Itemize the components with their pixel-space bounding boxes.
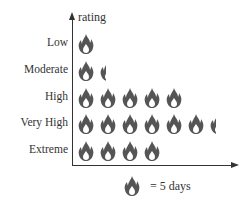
category-label: Very High [20, 116, 68, 128]
category-label: Low [47, 36, 68, 48]
legend-text: = 5 days [150, 179, 191, 194]
flame-icon [78, 141, 94, 161]
flame-icon [166, 114, 182, 134]
flame-icon [122, 114, 138, 134]
flame-icon [144, 141, 160, 161]
flame-icon [78, 88, 94, 108]
flame-icon [100, 88, 116, 108]
flame-icon [100, 141, 116, 161]
pictograph-row: Low [0, 34, 249, 54]
icon-group [78, 114, 222, 134]
flame-icon [210, 114, 216, 134]
flame-icon [78, 61, 94, 81]
flame-icon [144, 114, 160, 134]
y-axis-label: rating [78, 10, 106, 25]
flame-icon [78, 114, 94, 134]
flame-icon [100, 61, 106, 81]
pictograph-row: High [0, 88, 249, 108]
flame-icon [124, 176, 140, 196]
category-label: High [45, 90, 68, 102]
y-axis-arrow [69, 12, 75, 20]
flame-icon [122, 141, 138, 161]
flame-icon [78, 34, 94, 54]
pictograph-row: Extreme [0, 141, 249, 161]
legend: = 5 days [124, 176, 191, 196]
category-label: Extreme [29, 143, 68, 155]
category-label: Moderate [24, 63, 68, 75]
x-axis [72, 165, 233, 166]
icon-group [78, 34, 100, 54]
icon-group [78, 61, 112, 81]
x-axis-arrow [231, 162, 239, 168]
flame-icon [100, 114, 116, 134]
flame-icon [188, 114, 204, 134]
flame-icon [144, 88, 160, 108]
pictograph-row: Moderate [0, 61, 249, 81]
flame-icon [122, 88, 138, 108]
pictograph-row: Very High [0, 114, 249, 134]
flame-icon [166, 88, 182, 108]
icon-group [78, 88, 188, 108]
icon-group [78, 141, 166, 161]
